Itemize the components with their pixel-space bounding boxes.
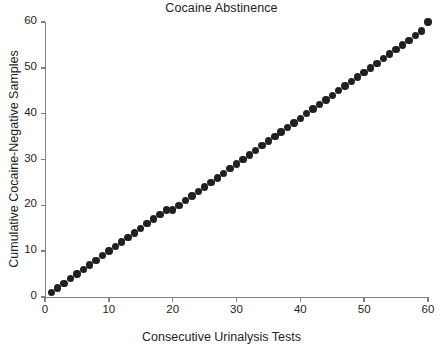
x-tick-label: 40	[285, 303, 315, 315]
x-tick-label: 0	[30, 303, 60, 315]
x-tick-mark	[363, 298, 364, 302]
x-axis-label: Consecutive Urinalysis Tests	[0, 330, 443, 344]
y-tick-label: 10	[11, 243, 37, 255]
data-point	[418, 27, 425, 34]
y-tick-label: 60	[11, 14, 37, 26]
data-point	[373, 60, 380, 67]
x-tick-label: 10	[94, 303, 124, 315]
data-point	[105, 247, 112, 254]
y-tick-label: 0	[11, 289, 37, 301]
x-tick-mark	[172, 298, 173, 302]
data-point	[341, 82, 348, 89]
plot-area	[45, 22, 428, 297]
data-point	[188, 192, 195, 199]
y-tick-label: 20	[11, 197, 37, 209]
data-point	[405, 37, 412, 44]
y-tick-label: 40	[11, 106, 37, 118]
x-tick-mark	[427, 298, 428, 302]
x-tick-mark	[108, 298, 109, 302]
y-tick-label: 30	[11, 152, 37, 164]
data-point	[73, 270, 80, 277]
data-point	[424, 18, 431, 25]
x-tick-label: 30	[222, 303, 252, 315]
x-tick-mark	[236, 298, 237, 302]
y-tick-label: 50	[11, 60, 37, 72]
x-tick-label: 20	[158, 303, 188, 315]
data-point	[175, 202, 182, 209]
chart-title: Cocaine Abstinence	[0, 1, 443, 15]
x-tick-mark	[44, 298, 45, 302]
x-tick-label: 60	[413, 303, 443, 315]
data-point	[60, 280, 67, 287]
data-point	[92, 257, 99, 264]
x-tick-mark	[300, 298, 301, 302]
data-point	[322, 96, 329, 103]
x-tick-label: 50	[349, 303, 379, 315]
